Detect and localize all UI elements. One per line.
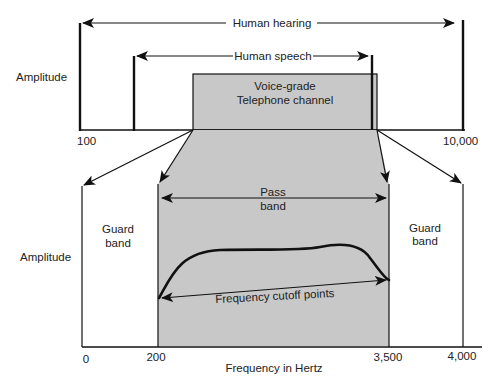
top-tick-10000: 10,000	[443, 135, 478, 147]
guard-band-right-line1: Guard	[409, 222, 441, 234]
bottom-x-axis-label: Frequency in Hertz	[225, 362, 322, 374]
top-y-axis-label: Amplitude	[16, 71, 67, 83]
human-speech-label: Human speech	[234, 50, 311, 62]
tick-0: 0	[83, 353, 89, 365]
top-tick-100: 100	[77, 135, 96, 147]
guard-band-left-line2: band	[105, 237, 131, 249]
pass-band-line2: band	[260, 200, 286, 212]
guard-band-right-line2: band	[412, 235, 438, 247]
top-panel: Amplitude Voice-grade Telephone channel …	[16, 17, 478, 147]
human-hearing-label: Human hearing	[233, 17, 312, 29]
tick-200: 200	[146, 351, 165, 363]
pass-band-fill	[158, 130, 389, 346]
guard-band-left-line1: Guard	[102, 223, 134, 235]
channel-label-line1: Voice-grade	[254, 80, 315, 92]
zoom-connectors	[84, 130, 461, 346]
tick-3500: 3,500	[374, 351, 403, 363]
tick-4000: 4,000	[448, 350, 477, 362]
bottom-y-axis-label: Amplitude	[20, 251, 71, 263]
telephone-channel-diagram: Amplitude Voice-grade Telephone channel …	[0, 0, 498, 383]
channel-label-line2: Telephone channel	[237, 94, 334, 106]
pass-band-line1: Pass	[260, 186, 286, 198]
